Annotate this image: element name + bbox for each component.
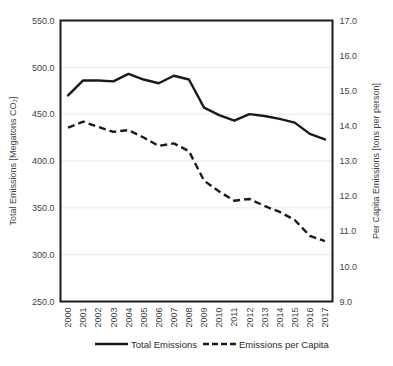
x-axis-tick: 2016	[305, 308, 315, 328]
chart-container: 550.0500.0450.0400.0350.0300.0250.0 17.0…	[0, 0, 393, 366]
x-axis-tick: 2005	[139, 308, 149, 328]
x-axis-tick: 2008	[184, 308, 194, 328]
legend-label-emissions-per-capita: Emissions per Capita	[239, 339, 329, 350]
x-axis-tick: 2000	[63, 308, 73, 328]
x-axis-tick: 2002	[93, 308, 103, 328]
left-axis-tick: 400.0	[32, 156, 55, 166]
x-axis-tick: 2009	[199, 308, 209, 328]
x-axis-tick: 2017	[320, 308, 330, 328]
right-axis-tick: 16.0	[340, 51, 358, 61]
left-axis-tick-labels: 550.0500.0450.0400.0350.0300.0250.0	[32, 16, 55, 307]
x-axis-tick: 2014	[275, 308, 285, 328]
x-axis-tick-labels: 2000200120022003200420052006200720082009…	[63, 308, 330, 328]
x-axis-tick: 2015	[290, 308, 300, 328]
x-axis-tick: 2001	[78, 308, 88, 328]
left-axis-title: Total Emissions [Megatons CO₂]	[8, 96, 18, 225]
left-axis-tick: 350.0	[32, 203, 55, 213]
right-axis-tick: 17.0	[340, 16, 358, 26]
x-axis-tick: 2011	[229, 308, 239, 327]
right-axis-tick: 11.0	[340, 226, 357, 236]
left-axis-tick: 300.0	[32, 250, 55, 260]
chart-legend: Total Emissions Emissions per Capita	[95, 339, 329, 350]
right-axis-tick: 14.0	[340, 121, 358, 131]
right-axis-tick: 12.0	[340, 191, 358, 201]
right-axis-title: Per Capita Emissions [tons per person]	[371, 83, 381, 239]
left-axis-tick: 550.0	[32, 16, 55, 26]
series-emissions-per-capita-line	[68, 122, 325, 241]
legend-label-total-emissions: Total Emissions	[131, 339, 197, 350]
left-axis-tick: 500.0	[32, 63, 55, 73]
right-axis-tick-labels: 17.016.015.014.013.012.011.010.09.0	[340, 16, 358, 307]
x-axis-tick: 2006	[154, 308, 164, 328]
x-axis-tick: 2003	[109, 308, 119, 328]
right-axis-tick: 9.0	[340, 297, 353, 307]
right-axis-tick: 15.0	[340, 86, 358, 96]
left-axis-tick: 250.0	[32, 297, 55, 307]
x-axis-tick: 2004	[124, 308, 134, 328]
left-axis-tick: 450.0	[32, 109, 55, 119]
series-total-emissions-line	[68, 74, 325, 140]
emissions-line-chart: 550.0500.0450.0400.0350.0300.0250.0 17.0…	[0, 0, 393, 366]
x-axis-tick: 2013	[260, 308, 270, 328]
x-axis-tick: 2010	[214, 308, 224, 328]
x-axis-tick: 2012	[245, 308, 255, 328]
x-axis-tick: 2007	[169, 308, 179, 328]
right-axis-tick: 13.0	[340, 156, 358, 166]
right-axis-tick: 10.0	[340, 262, 358, 272]
